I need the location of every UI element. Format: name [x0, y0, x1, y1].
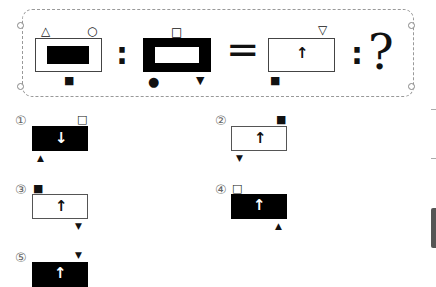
page-edge-mark — [431, 158, 436, 159]
down-arrow-icon: ↓ — [55, 131, 68, 146]
option-number: ② — [215, 114, 227, 127]
filled-square-icon: ■ — [270, 75, 280, 86]
filled-square-icon: ■ — [33, 183, 43, 194]
option-number: ⑤ — [15, 251, 27, 264]
page-edge-tab — [431, 208, 436, 248]
filled-circle-icon: ● — [148, 75, 159, 88]
option-2-box: ↑ — [231, 126, 287, 151]
ratio-colon: : — [116, 39, 128, 69]
term-1-inner-black-rect — [47, 46, 89, 64]
option-3-box: ↑ — [32, 194, 88, 219]
down-triangle-outline-icon: ▽ — [318, 24, 327, 36]
term-2-frame-black — [143, 38, 211, 72]
option-5-box: ↑ — [32, 262, 88, 287]
filled-up-triangle-icon: ▲ — [275, 222, 282, 231]
option-number: ① — [15, 114, 27, 127]
square-outline-icon: □ — [171, 26, 182, 38]
ring-decoration-icon — [17, 83, 24, 90]
ring-decoration-icon — [408, 22, 415, 29]
circle-outline-icon: ○ — [87, 25, 97, 37]
page-edge-mark — [431, 109, 436, 110]
option-number: ④ — [215, 183, 227, 196]
ring-decoration-icon — [17, 22, 24, 29]
up-arrow-icon: ↑ — [254, 131, 267, 146]
up-arrow-icon: ↑ — [55, 199, 68, 214]
filled-down-triangle-icon: ▼ — [236, 154, 243, 163]
square-outline-icon: □ — [77, 114, 87, 125]
option-number: ③ — [15, 183, 27, 196]
term-1-frame — [35, 38, 102, 72]
square-outline-icon: □ — [232, 183, 242, 194]
option-4-box: ↑ — [231, 194, 287, 219]
up-arrow-icon: ↑ — [296, 46, 309, 61]
filled-square-icon: ■ — [276, 114, 286, 125]
filled-square-icon: ■ — [64, 75, 74, 86]
filled-down-triangle-icon: ▼ — [75, 251, 82, 260]
equals-sign: = — [226, 29, 260, 69]
filled-down-triangle-icon: ▼ — [196, 75, 204, 86]
option-1-box: ↓ — [32, 126, 88, 151]
filled-up-triangle-icon: ▲ — [37, 154, 44, 163]
term-3-frame: ↑ — [268, 38, 335, 72]
triangle-outline-icon: △ — [41, 25, 50, 37]
ring-decoration-icon — [408, 83, 415, 90]
filled-down-triangle-icon: ▼ — [75, 222, 82, 231]
up-arrow-icon: ↑ — [54, 266, 67, 281]
ratio-colon: : — [351, 39, 363, 69]
up-arrow-icon: ↑ — [253, 198, 266, 213]
question-mark: ? — [368, 28, 394, 76]
